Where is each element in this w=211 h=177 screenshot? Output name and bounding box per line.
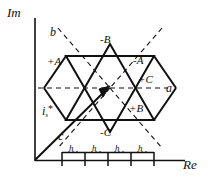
- vertex-label-minus-C: -C: [100, 127, 111, 138]
- scale-label-h-2: h: [92, 144, 97, 153]
- vertex-label-plus-C: +C: [138, 74, 153, 85]
- current-vector-label: is*: [42, 104, 53, 119]
- imaginary-axis-label: Im: [7, 6, 21, 19]
- phase-axis-a-label: a: [166, 82, 172, 94]
- scale-bar-group: [62, 152, 154, 166]
- phase-axis-c-label: c: [58, 130, 63, 142]
- current-vector-superscript: *: [48, 103, 53, 114]
- vertex-label-plus-A: +A: [47, 56, 61, 67]
- scale-label-h-4: h: [138, 144, 143, 153]
- scale-label-h-3: h: [115, 144, 120, 153]
- hexagon-right-tip: [154, 56, 176, 88]
- vertex-label-plus-B: +B: [129, 103, 143, 114]
- scale-label-h-1: h: [69, 144, 74, 153]
- real-axis-label: Re: [183, 158, 197, 171]
- phase-axis-b-label: b: [50, 26, 56, 38]
- diagram-svg: [0, 0, 211, 177]
- vertex-label-minus-A: -A: [133, 55, 143, 66]
- hexagon-right-tip-lower: [154, 88, 176, 120]
- figure-canvas: Im Re b a c +A -B -A +C +B -C is* h h h …: [0, 0, 211, 177]
- vertex-label-minus-B: -B: [100, 34, 110, 45]
